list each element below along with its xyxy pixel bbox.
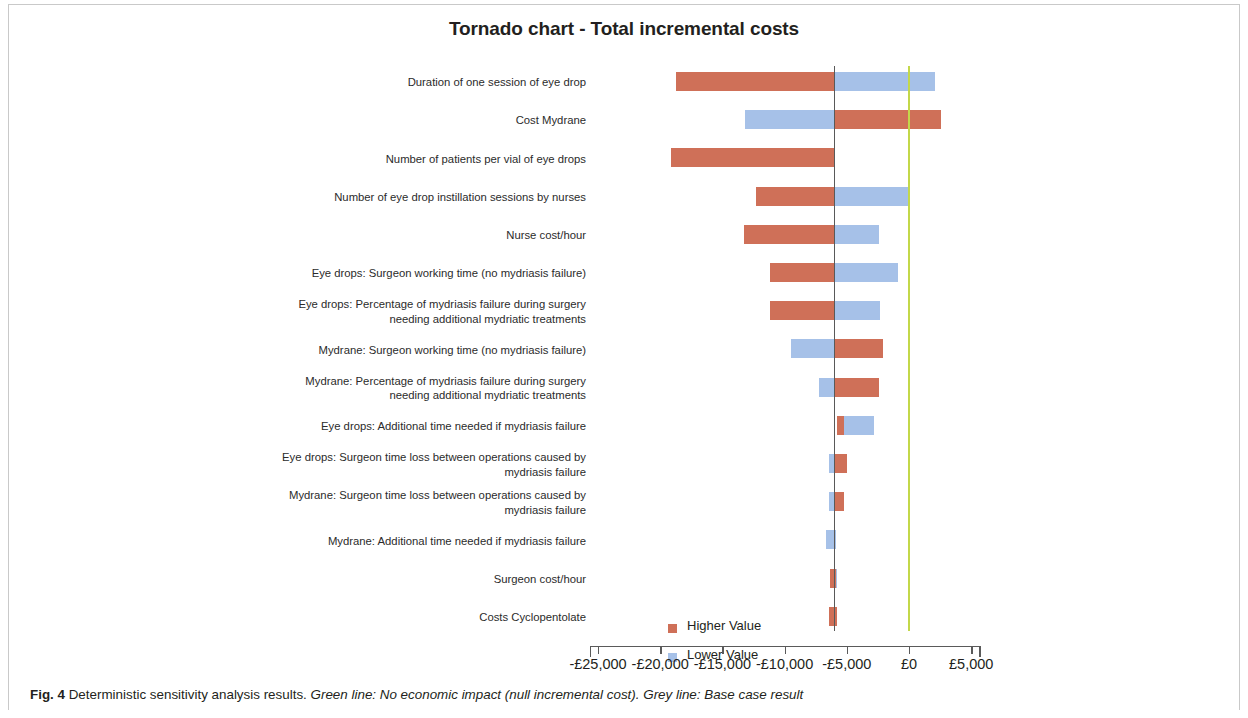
axis-tick-label: -£20,000 <box>632 656 689 672</box>
bar-lower-value <box>834 72 935 91</box>
category-label: Eye drops: Surgeon time loss between ope… <box>156 450 586 479</box>
category-label: Costs Cyclopentolate <box>156 610 586 625</box>
figure-panel: Tornado chart - Total incremental costs … <box>0 0 1248 718</box>
tornado-row: Nurse cost/hour <box>0 225 1248 263</box>
bar-higher-value <box>834 339 883 358</box>
axis-tick <box>847 646 848 654</box>
x-axis: -£25,000-£20,000-£15,000-£10,000-£5,000£… <box>0 646 1248 662</box>
category-label: Mydrane: Additional time needed if mydri… <box>156 534 586 549</box>
axis-tick <box>785 646 786 654</box>
tornado-row: Duration of one session of eye drop <box>0 72 1248 110</box>
tornado-row: Cost Mydrane <box>0 110 1248 148</box>
caption-text: Deterministic sensitivity analysis resul… <box>65 687 311 702</box>
panel-border-top <box>8 4 1240 5</box>
bar-higher-value <box>837 416 844 435</box>
legend-label-higher: Higher Value <box>687 618 761 633</box>
axis-tick <box>722 646 723 654</box>
bar-lower-value <box>834 263 897 282</box>
category-label: Eye drops: Percentage of mydriasis failu… <box>156 297 586 326</box>
figure-caption: Fig. 4 Deterministic sensitivity analysi… <box>30 686 1230 703</box>
category-label: Number of patients per vial of eye drops <box>156 152 586 167</box>
axis-tick-label: £5,000 <box>949 656 993 672</box>
caption-italic: Green line: No economic impact (null inc… <box>311 687 804 702</box>
bar-lower-value <box>834 301 880 320</box>
bar-higher-value <box>770 301 835 320</box>
bar-higher-value <box>756 187 834 206</box>
bar-lower-value <box>819 378 834 397</box>
plot-area: Duration of one session of eye dropCost … <box>0 66 1248 646</box>
tornado-row: Eye drops: Percentage of mydriasis failu… <box>0 301 1248 339</box>
axis-tick <box>598 646 599 654</box>
tornado-row: Eye drops: Surgeon working time (no mydr… <box>0 263 1248 301</box>
bar-higher-value <box>834 492 844 511</box>
bar-lower-value <box>836 569 837 588</box>
legend-swatch-higher-icon <box>668 624 677 633</box>
category-label: Number of eye drop instillation sessions… <box>156 190 586 205</box>
tornado-row: Surgeon cost/hour <box>0 569 1248 607</box>
bar-higher-value <box>834 378 879 397</box>
bar-lower-value <box>844 416 874 435</box>
bar-lower-value <box>834 225 879 244</box>
bar-lower-value <box>745 110 835 129</box>
tornado-row: Mydrane: Surgeon working time (no mydria… <box>0 339 1248 377</box>
tornado-row: Costs Cyclopentolate <box>0 607 1248 645</box>
tornado-row: Number of eye drop instillation sessions… <box>0 187 1248 225</box>
bar-higher-value <box>834 454 846 473</box>
axis-tick <box>909 646 910 654</box>
chart-title: Tornado chart - Total incremental costs <box>0 18 1248 40</box>
bar-higher-value <box>744 225 835 244</box>
zero-reference-line <box>908 66 910 631</box>
bar-lower-value <box>791 339 835 358</box>
category-label: Mydrane: Surgeon time loss between opera… <box>156 488 586 517</box>
axis-tick-label: -£10,000 <box>756 656 813 672</box>
bar-higher-value <box>676 72 834 91</box>
tornado-row: Number of patients per vial of eye drops <box>0 148 1248 186</box>
axis-tick-label: -£25,000 <box>569 656 626 672</box>
tornado-row: Eye drops: Surgeon time loss between ope… <box>0 454 1248 492</box>
base-case-line <box>834 66 836 631</box>
axis-tick <box>971 646 972 654</box>
axis-tick-label: -£15,000 <box>694 656 751 672</box>
tornado-row: Mydrane: Surgeon time loss between opera… <box>0 492 1248 530</box>
category-label: Cost Mydrane <box>156 113 586 128</box>
tornado-row: Eye drops: Additional time needed if myd… <box>0 416 1248 454</box>
category-label: Nurse cost/hour <box>156 228 586 243</box>
bar-higher-value <box>834 110 941 129</box>
category-label: Duration of one session of eye drop <box>156 75 586 90</box>
axis-tick <box>660 646 661 654</box>
figure-number: Fig. 4 <box>30 687 65 702</box>
category-label: Mydrane: Surgeon working time (no mydria… <box>156 343 586 358</box>
category-label: Eye drops: Surgeon working time (no mydr… <box>156 266 586 281</box>
bar-higher-value <box>671 148 834 167</box>
bar-lower-value <box>834 187 907 206</box>
axis-tick-label: -£5,000 <box>822 656 871 672</box>
tornado-row: Mydrane: Additional time needed if mydri… <box>0 530 1248 568</box>
axis-tick-label: £0 <box>901 656 917 672</box>
category-label: Surgeon cost/hour <box>156 572 586 587</box>
category-label: Eye drops: Additional time needed if myd… <box>156 419 586 434</box>
bar-higher-value <box>770 263 835 282</box>
category-label: Mydrane: Percentage of mydriasis failure… <box>156 374 586 403</box>
tornado-row: Mydrane: Percentage of mydriasis failure… <box>0 378 1248 416</box>
